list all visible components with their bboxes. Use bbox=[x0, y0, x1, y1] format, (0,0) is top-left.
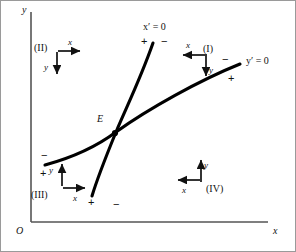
arrow-axis-name: x bbox=[68, 38, 72, 47]
arrow-axis-name: x bbox=[73, 194, 77, 203]
diagram-canvas bbox=[0, 0, 296, 252]
y-nullcline-curve bbox=[45, 64, 240, 165]
region-label-region-4: (IV) bbox=[206, 184, 223, 194]
arrow-axis-name: y bbox=[204, 161, 208, 170]
sign-marker: − bbox=[113, 199, 119, 210]
sign-marker: + bbox=[88, 197, 94, 208]
sign-marker: − bbox=[222, 54, 228, 65]
direction-arrows bbox=[57, 51, 206, 188]
y-nullcline-label: y′ = 0 bbox=[246, 56, 269, 66]
origin-label: O bbox=[16, 226, 23, 236]
arrow-axis-name: x bbox=[182, 186, 186, 195]
x-nullcline-label: x′ = 0 bbox=[143, 22, 166, 32]
arrow-axis-name: y bbox=[49, 166, 53, 175]
equilibrium-point-marker bbox=[112, 130, 118, 136]
equilibrium-point-label: E bbox=[97, 114, 103, 124]
region-label-region-2: (II) bbox=[34, 43, 47, 53]
region-label-region-1: (I) bbox=[203, 44, 213, 54]
phase-plane-figure: y x O E x′ = 0 y′ = 0 +−+−−+−+(II)xy(I)x… bbox=[0, 0, 296, 252]
region-label-region-3: (III) bbox=[31, 190, 48, 200]
x-axis-label: x bbox=[273, 226, 277, 236]
arrow-axis-name: y bbox=[44, 63, 48, 72]
sign-marker: + bbox=[228, 73, 234, 84]
sign-marker: + bbox=[141, 36, 147, 47]
sign-marker: + bbox=[40, 168, 46, 179]
arrow-axis-name: y bbox=[209, 66, 213, 75]
arrow-axis-name: x bbox=[186, 41, 190, 50]
y-axis-label: y bbox=[22, 5, 26, 15]
sign-marker: − bbox=[41, 150, 47, 161]
sign-marker: − bbox=[161, 36, 167, 47]
